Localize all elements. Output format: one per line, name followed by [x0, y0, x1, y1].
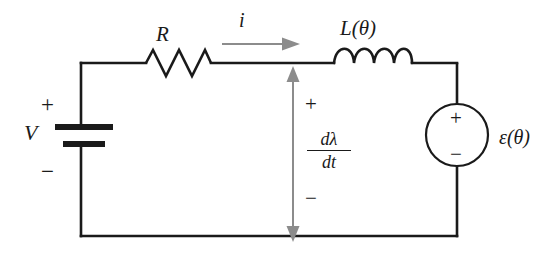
flux-linkage-arrow	[287, 66, 300, 242]
emf-source-minus-sign: −	[450, 144, 462, 165]
flux-derivative-numerator: dλ	[307, 130, 351, 151]
circuit-diagram: R i L(θ) V ε(θ) + − + − + − dλ dt	[0, 0, 550, 253]
flux-derivative-denominator: dt	[307, 151, 351, 173]
inductor-label: L(θ)	[340, 18, 376, 39]
circuit-schematic-svg	[0, 0, 550, 253]
resistor-symbol	[146, 50, 211, 76]
circuit-wires	[81, 63, 457, 236]
emf-source-plus-sign: +	[450, 108, 462, 129]
inductor-symbol	[334, 49, 412, 63]
battery-minus-sign: −	[41, 160, 54, 183]
current-arrow	[222, 38, 300, 51]
battery-plus-sign: +	[41, 93, 54, 116]
current-label: i	[239, 10, 245, 30]
resistor-label: R	[156, 24, 169, 45]
battery-symbol	[55, 127, 113, 144]
emf-source-label-text: ε(θ)	[499, 126, 530, 148]
battery-label: V	[24, 122, 37, 144]
flux-derivative-label: dλ dt	[307, 130, 351, 173]
flux-arrow-minus-sign: −	[305, 188, 317, 209]
emf-source-label: ε(θ)	[499, 127, 530, 147]
flux-arrow-plus-sign: +	[305, 94, 317, 115]
